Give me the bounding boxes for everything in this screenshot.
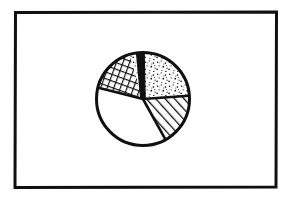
diagram-canvas: Hand-drawn pie chart diagram (0, 0, 288, 200)
pie-chart-figure (0, 0, 288, 200)
